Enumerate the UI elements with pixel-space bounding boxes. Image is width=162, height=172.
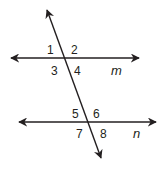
parallel-lines-diagram: 1 2 3 4 m 5 6 7 8 n — [0, 0, 162, 172]
angle-4-label: 4 — [74, 64, 81, 78]
line-n-label: n — [133, 126, 140, 141]
angle-6-label: 6 — [93, 107, 100, 121]
angle-7-label: 7 — [76, 127, 83, 141]
angle-1-label: 1 — [47, 43, 54, 57]
angle-5-label: 5 — [72, 107, 79, 121]
transversal-line — [47, 10, 101, 158]
angle-2-label: 2 — [71, 43, 78, 57]
line-m-label: m — [111, 63, 122, 78]
angle-8-label: 8 — [100, 127, 107, 141]
angle-3-label: 3 — [51, 64, 58, 78]
